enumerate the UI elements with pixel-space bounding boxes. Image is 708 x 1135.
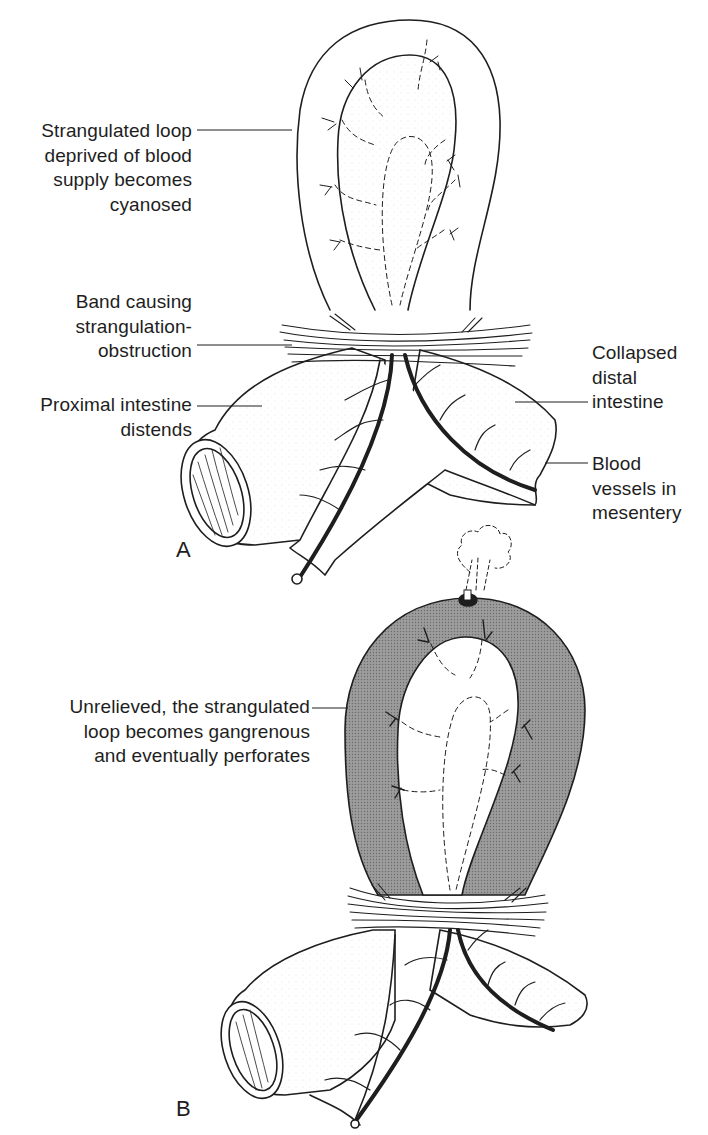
panel-letter-b: B [176, 1096, 191, 1122]
panel-letter-a: A [176, 537, 191, 563]
label-proximal-intestine: Proximal intestine distends [40, 393, 192, 442]
label-collapsed-distal-intestine: Collapsed distal intestine [592, 341, 677, 415]
label-gangrenous-loop: Unrelieved, the strangulated loop become… [70, 695, 310, 769]
distal-intestine-b [430, 930, 587, 1027]
panel-a-illustration [169, 20, 557, 584]
label-blood-vessels-mesentery: Blood vessels in mesentery [592, 452, 682, 526]
panel-b-illustration [210, 525, 587, 1128]
label-band: Band causing strangulation- obstruction [75, 290, 192, 364]
perforation-plume [457, 525, 511, 590]
label-strangulated-loop: Strangulated loop deprived of blood supp… [41, 119, 192, 217]
vessel-cut-end-a [292, 574, 302, 584]
vessel-cut-end-b [351, 1120, 359, 1128]
figure-strangulation-obstruction: Strangulated loop deprived of blood supp… [0, 0, 708, 1135]
